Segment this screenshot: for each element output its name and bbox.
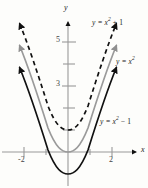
x-axis-label: x bbox=[141, 146, 145, 154]
curve-label-lhs: y = bbox=[100, 117, 111, 126]
y-tick-label-5: 5 bbox=[56, 36, 60, 44]
parabola-figure: y x 5 3 -2 2 y = x2 + 1 y = x2 y = x2 − … bbox=[0, 0, 148, 188]
curve-label-exponent: 2 bbox=[116, 115, 119, 121]
curve-label-lhs: y = bbox=[92, 18, 103, 27]
y-axis-ticks bbox=[62, 42, 76, 130]
curve-label-lhs: y = bbox=[116, 57, 127, 66]
curve-label-tail: − 1 bbox=[121, 117, 131, 126]
curve-label-tail: + 1 bbox=[113, 18, 123, 27]
y-axis-label: y bbox=[64, 4, 68, 12]
x-tick-label-2: 2 bbox=[109, 156, 113, 164]
curve-label-exponent: 2 bbox=[132, 55, 135, 61]
curve-label-x-squared-plus-1: y = x2 + 1 bbox=[92, 17, 123, 26]
x-tick-label-negative-2: -2 bbox=[18, 156, 25, 164]
curve-label-x-squared: y = x2 bbox=[116, 56, 135, 65]
curve-label-exponent: 2 bbox=[108, 16, 111, 22]
curve-label-x-squared-minus-1: y = x2 − 1 bbox=[100, 116, 131, 125]
y-tick-label-3: 3 bbox=[56, 80, 60, 88]
